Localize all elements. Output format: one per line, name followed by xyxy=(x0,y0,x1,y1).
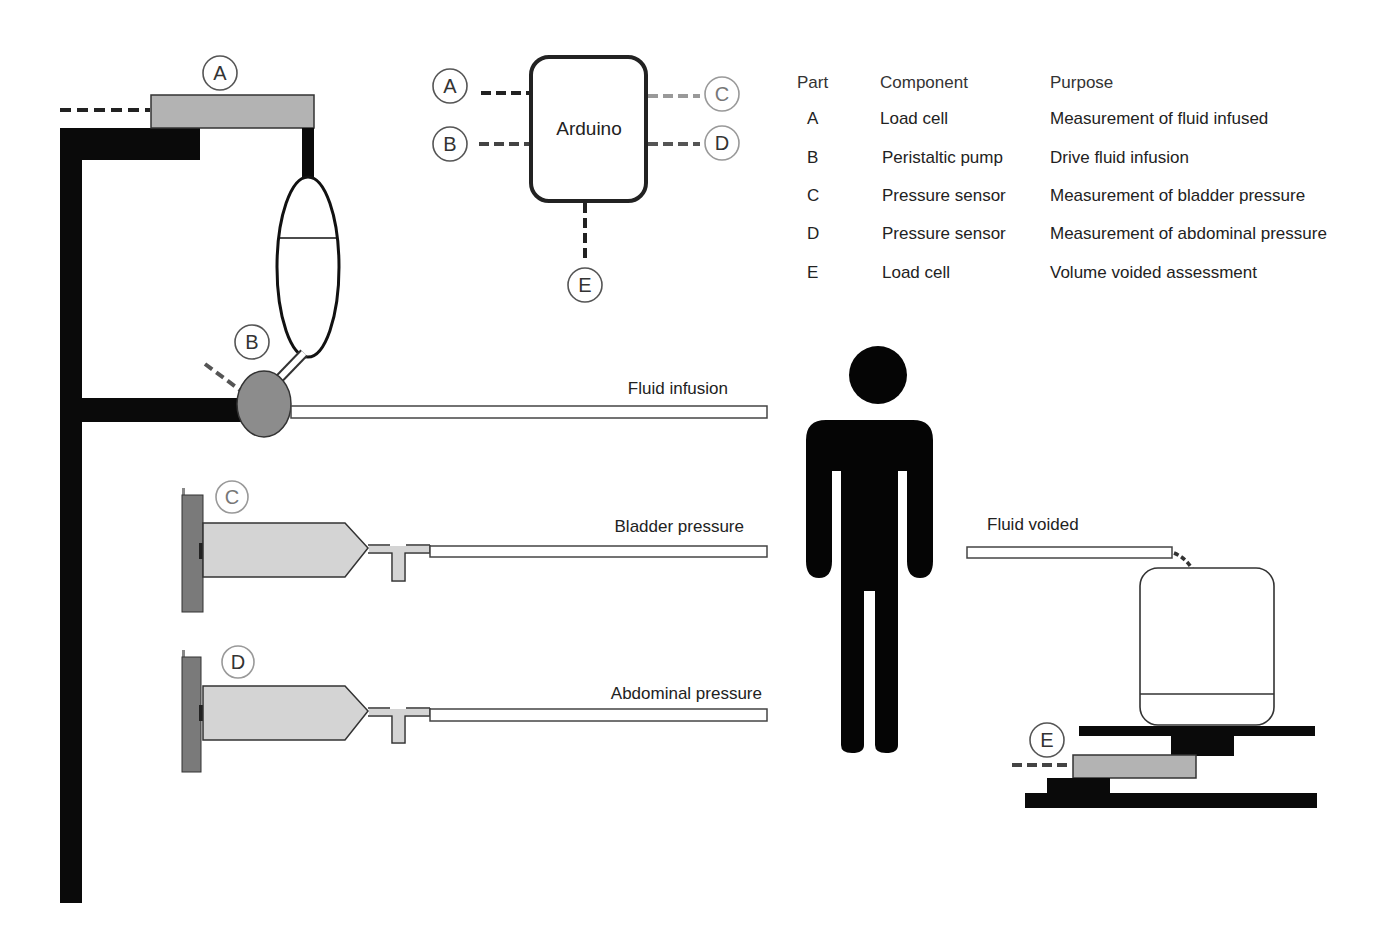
row-a-purpose: Measurement of fluid infused xyxy=(1050,109,1268,128)
scale-top-spacer xyxy=(1171,735,1234,756)
bladder-pressure-label: Bladder pressure xyxy=(615,517,744,536)
header-part: Part xyxy=(797,73,828,92)
row-d-part: D xyxy=(807,224,819,243)
row-c-purpose: Measurement of bladder pressure xyxy=(1050,186,1305,205)
stand-top-arm xyxy=(60,128,200,160)
scale-base-plate xyxy=(1025,793,1317,808)
badge-e-label: E xyxy=(1040,729,1053,751)
row-a-part: A xyxy=(807,109,819,128)
abdominal-pressure-tube xyxy=(430,709,767,721)
row-b-part: B xyxy=(807,148,818,167)
pump-b-body xyxy=(237,371,291,437)
badge-c-label: C xyxy=(225,486,239,508)
infusion-bag xyxy=(277,177,339,357)
load-cell-e-body xyxy=(1073,755,1196,778)
abdominal-pressure-line: Abdominal pressure xyxy=(430,684,767,721)
bladder-pressure-tube xyxy=(430,546,767,557)
sensor-c-syringe xyxy=(203,523,368,577)
sensor-d-syringe xyxy=(203,686,368,740)
row-d-component: Pressure sensor xyxy=(882,224,1006,243)
infusion-stand xyxy=(60,128,245,903)
arduino-block: Arduino A B C D E xyxy=(433,57,739,302)
stand-pole xyxy=(60,128,82,903)
scale-bottom-spacer xyxy=(1047,778,1110,794)
arduino-badge-a-label: A xyxy=(443,75,457,97)
arduino-label: Arduino xyxy=(556,118,622,139)
badge-b-label: B xyxy=(245,331,258,353)
person-icon xyxy=(806,346,933,753)
bladder-pressure-line: Bladder pressure xyxy=(430,517,767,557)
abdominal-pressure-label: Abdominal pressure xyxy=(611,684,762,703)
stand-pump-arm xyxy=(60,398,245,422)
header-component: Component xyxy=(880,73,968,92)
row-b-component: Peristaltic pump xyxy=(882,148,1003,167)
fluid-infusion-line: Fluid infusion xyxy=(291,379,767,418)
pump-b-wire xyxy=(205,364,240,390)
bag-hanger xyxy=(302,128,314,178)
load-cell-e-scale: E xyxy=(1012,723,1317,808)
row-c-component: Pressure sensor xyxy=(882,186,1006,205)
arduino-badge-b-label: B xyxy=(443,133,456,155)
row-e-component: Load cell xyxy=(882,263,950,282)
fluid-voided-tube xyxy=(967,547,1172,558)
pressure-sensor-c: C xyxy=(182,481,430,612)
scale-top-plate xyxy=(1079,726,1315,736)
urodynamics-diagram: A B Fluid infusion C Bladder pressure xyxy=(0,0,1383,927)
legend-table: Part Component Purpose A Load cell Measu… xyxy=(797,73,1327,282)
row-b-purpose: Drive fluid infusion xyxy=(1050,148,1189,167)
arduino-badge-c-label: C xyxy=(715,83,729,105)
fluid-infusion-tube xyxy=(291,406,767,418)
pressure-sensor-d: D xyxy=(182,646,430,772)
header-purpose: Purpose xyxy=(1050,73,1113,92)
arduino-badge-d-label: D xyxy=(715,132,729,154)
container-body xyxy=(1140,568,1274,725)
fluid-infusion-label: Fluid infusion xyxy=(628,379,728,398)
row-e-part: E xyxy=(807,263,818,282)
fluid-voided-label: Fluid voided xyxy=(987,515,1079,534)
person-head xyxy=(849,346,907,404)
sensor-d-mount xyxy=(182,657,201,772)
row-d-purpose: Measurement of abdominal pressure xyxy=(1050,224,1327,243)
load-cell-a-body xyxy=(151,95,314,128)
infusion-bag-body xyxy=(277,177,339,357)
row-a-component: Load cell xyxy=(880,109,948,128)
arduino-badge-e-label: E xyxy=(578,274,591,296)
row-e-purpose: Volume voided assessment xyxy=(1050,263,1257,282)
person-body xyxy=(806,420,933,753)
badge-a-label: A xyxy=(213,62,227,84)
badge-d-label: D xyxy=(231,651,245,673)
collection-container xyxy=(1140,568,1274,725)
row-c-part: C xyxy=(807,186,819,205)
